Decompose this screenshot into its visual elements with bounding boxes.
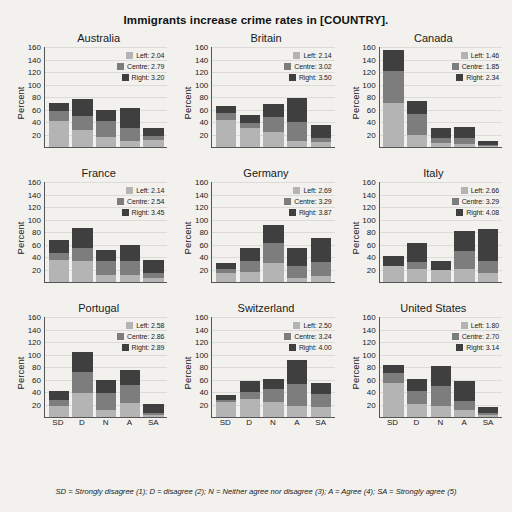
y-axis-ticks: 20406080100120140160 <box>357 317 377 417</box>
bar-d[interactable] <box>407 243 427 282</box>
y-tick-label: 100 <box>28 350 41 359</box>
y-tick-label: 100 <box>195 80 208 89</box>
bar-sa[interactable] <box>478 141 498 147</box>
x-tick-label: A <box>119 418 139 427</box>
legend-item: Left: 2.14 <box>284 50 331 61</box>
bar-n[interactable] <box>431 366 451 417</box>
bar-n[interactable] <box>263 225 283 282</box>
y-tick-label: 120 <box>28 203 41 212</box>
bar-n[interactable] <box>263 104 283 147</box>
y-tick-label: 160 <box>362 313 375 322</box>
bar-d[interactable] <box>240 115 260 148</box>
bar-segment-right <box>454 381 474 402</box>
bar-segment-left <box>240 272 260 282</box>
bar-segment-left <box>407 404 427 417</box>
bar-sa[interactable] <box>478 407 498 417</box>
panel-britain: BritainPercent20406080100120140160Left: … <box>171 30 338 165</box>
y-tick-label: 160 <box>28 43 41 52</box>
bar-a[interactable] <box>287 98 307 147</box>
panel-grid: AustraliaPercent20406080100120140160Left… <box>0 26 512 435</box>
bar-d[interactable] <box>72 228 92 282</box>
legend-label: Centre: 3.29 <box>462 196 499 207</box>
bar-sd[interactable] <box>383 365 403 418</box>
x-tick-label: D <box>72 418 92 427</box>
bar-sa[interactable] <box>311 238 331 282</box>
bar-d[interactable] <box>407 101 427 147</box>
bar-a[interactable] <box>287 248 307 282</box>
bar-a[interactable] <box>120 108 140 147</box>
y-tick-label: 80 <box>32 93 41 102</box>
bar-sd[interactable] <box>216 106 236 147</box>
bar-sd[interactable] <box>383 256 403 282</box>
bar-segment-left <box>478 415 498 417</box>
legend-swatch-icon <box>293 322 300 329</box>
bar-sd[interactable] <box>49 391 69 417</box>
legend-label: Left: 1.46 <box>471 50 499 61</box>
bar-d[interactable] <box>407 379 427 417</box>
bar-sa[interactable] <box>478 229 498 282</box>
bar-sa[interactable] <box>143 128 163 147</box>
bar-sd[interactable] <box>383 50 403 147</box>
bar-segment-left <box>454 144 474 147</box>
panel-portugal: PortugalPercent20406080100120140160Left:… <box>4 300 171 435</box>
bar-segment-right <box>263 104 283 117</box>
bar-segment-left <box>287 278 307 282</box>
bar-segment-centre <box>311 262 331 276</box>
legend-label: Left: 2.04 <box>136 50 164 61</box>
bar-n[interactable] <box>96 380 116 417</box>
bar-sa[interactable] <box>311 125 331 147</box>
y-tick-label: 80 <box>199 228 208 237</box>
legend-item: Left: 2.50 <box>284 320 331 331</box>
bar-sd[interactable] <box>49 103 69 147</box>
y-tick-label: 40 <box>367 118 376 127</box>
x-axis-ticks: SDDNASA <box>44 418 167 427</box>
bar-n[interactable] <box>263 379 283 417</box>
bar-sa[interactable] <box>143 260 163 283</box>
bar-a[interactable] <box>120 370 140 418</box>
bar-sd[interactable] <box>216 395 236 418</box>
legend-item: Right: 2.34 <box>452 72 499 83</box>
bar-segment-left <box>49 406 69 417</box>
bar-a[interactable] <box>120 245 140 283</box>
plot-area: Left: 2.69Centre: 3.29Right: 3.87 <box>211 182 334 283</box>
bar-d[interactable] <box>72 352 92 417</box>
bar-segment-left <box>311 276 331 282</box>
bar-d[interactable] <box>240 381 260 417</box>
legend-label: Right: 4.00 <box>299 342 332 353</box>
bar-d[interactable] <box>72 99 92 147</box>
bar-segment-right <box>263 225 283 243</box>
bar-segment-right <box>263 379 283 389</box>
legend-item: Centre: 1.85 <box>452 61 499 72</box>
bar-n[interactable] <box>96 250 116 282</box>
bar-segment-centre <box>49 111 69 120</box>
y-axis-ticks: 20406080100120140160 <box>22 47 42 147</box>
bar-a[interactable] <box>287 360 307 417</box>
bar-sa[interactable] <box>143 404 163 417</box>
x-tick-label: D <box>239 418 259 427</box>
bar-segment-left <box>72 393 92 417</box>
bar-n[interactable] <box>431 261 451 282</box>
bar-a[interactable] <box>454 381 474 417</box>
bar-segment-right <box>287 248 307 266</box>
bar-segment-centre <box>287 122 307 141</box>
panel-united-states: United StatesPercent20406080100120140160… <box>339 300 506 435</box>
bar-segment-centre <box>407 391 427 404</box>
y-tick-label: 40 <box>367 253 376 262</box>
y-tick-label: 140 <box>362 325 375 334</box>
bar-a[interactable] <box>454 127 474 147</box>
bar-d[interactable] <box>240 248 260 282</box>
legend-label: Centre: 3.24 <box>294 331 331 342</box>
y-tick-label: 100 <box>362 350 375 359</box>
bar-sd[interactable] <box>216 263 236 282</box>
bar-sa[interactable] <box>311 383 331 417</box>
y-tick-label: 140 <box>195 190 208 199</box>
y-tick-label: 140 <box>28 325 41 334</box>
bar-n[interactable] <box>96 110 116 148</box>
bar-sd[interactable] <box>49 240 69 282</box>
plot-wrap: Percent20406080100120140160Left: 2.69Cen… <box>173 182 338 294</box>
bar-n[interactable] <box>431 128 451 147</box>
bar-segment-right <box>143 260 163 274</box>
bar-a[interactable] <box>454 231 474 282</box>
x-tick-label: N <box>96 418 116 427</box>
panel-france: FrancePercent20406080100120140160Left: 2… <box>4 165 171 300</box>
